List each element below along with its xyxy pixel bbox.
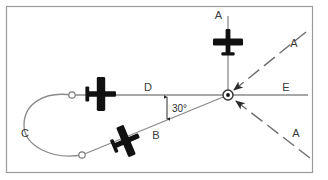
label-inbound-a-lower: A [292, 127, 300, 139]
label-angle-30: 30° [172, 103, 187, 114]
label-inbound-leg-b: B [152, 129, 159, 141]
aircraft-symbol-top [213, 29, 243, 56]
label-outbound-leg-d: D [144, 81, 152, 93]
turn-entry-fix [69, 92, 75, 98]
holding-pattern-figure: A A A D B C E 30° [0, 0, 328, 180]
diagram-canvas: A A A D B C E 30° [0, 0, 328, 180]
label-turn-leg-c: C [21, 127, 29, 139]
navaid-station-dot [226, 93, 230, 97]
turn-exit-fix [79, 152, 85, 158]
label-top-aircraft: A [215, 9, 223, 21]
label-inbound-a-upper: A [290, 37, 298, 49]
turn-leg-c-arc [24, 94, 82, 156]
label-holding-radial-e: E [282, 81, 289, 93]
aircraft-symbol-outbound [85, 77, 116, 111]
aircraft-symbol-inbound [106, 121, 145, 162]
figure-frame [7, 7, 313, 173]
